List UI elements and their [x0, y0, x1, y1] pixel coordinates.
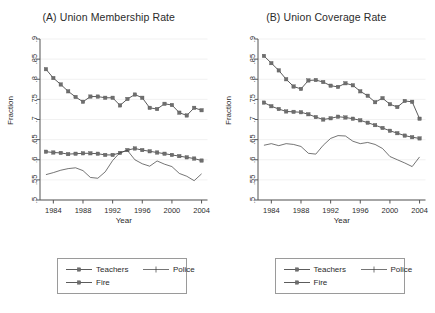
y-tick-label-a: .6: [30, 157, 39, 163]
legend-swatch-teachers-icon: [66, 265, 92, 274]
data-point-fire-a: [141, 96, 144, 99]
data-point-fire-b: [380, 96, 383, 99]
data-point-teachers-a: [170, 153, 173, 156]
data-point-teachers-a: [81, 152, 84, 155]
data-point-fire-a: [118, 104, 121, 107]
data-point-teachers-b: [306, 113, 309, 116]
data-point-fire-a: [96, 95, 99, 98]
data-point-fire-b: [358, 90, 361, 93]
y-tick-label-a: .9: [30, 36, 39, 42]
data-point-teachers-a: [59, 151, 62, 154]
data-point-teachers-a: [148, 150, 151, 153]
data-point-teachers-b: [358, 119, 361, 122]
legend-item-police-a: Police: [143, 265, 195, 274]
x-tick-label-b: 2000: [381, 206, 398, 215]
panel-b: (B) Union Coverage Rate Fraction .5.55.6…: [218, 0, 435, 313]
x-tick-label-a: 2000: [164, 206, 181, 215]
data-point-fire-a: [170, 103, 173, 106]
x-tick-label-b: 1988: [292, 206, 309, 215]
panel-b-svg: .5.55.6.65.7.75.8.85.9198419881992199620…: [218, 33, 435, 236]
data-point-teachers-b: [269, 105, 272, 108]
panel-a-title: (A) Union Membership Rate: [0, 11, 218, 23]
legend-swatch-fire-icon: [284, 278, 310, 287]
data-point-fire-b: [262, 54, 265, 57]
data-point-teachers-b: [365, 121, 368, 124]
data-point-teachers-a: [74, 152, 77, 155]
data-point-teachers-b: [373, 123, 376, 126]
legend-label-fire: Fire: [314, 278, 328, 287]
x-tick-label-a: 1992: [104, 206, 121, 215]
data-point-fire-a: [192, 106, 195, 109]
data-point-fire-b: [291, 85, 294, 88]
data-point-teachers-b: [262, 101, 265, 104]
data-point-fire-b: [343, 82, 346, 85]
data-point-fire-b: [328, 84, 331, 87]
data-point-teachers-b: [343, 116, 346, 119]
x-tick-label-a: 1984: [45, 206, 62, 215]
data-point-fire-a: [59, 83, 62, 86]
legend-swatch-police-icon: [361, 265, 387, 274]
data-point-teachers-a: [96, 152, 99, 155]
x-tick-label-b: 1996: [351, 206, 368, 215]
data-point-fire-b: [314, 78, 317, 81]
data-point-fire-a: [81, 100, 84, 103]
data-point-fire-a: [163, 102, 166, 105]
y-tick-label-b: .75: [247, 94, 256, 104]
data-point-teachers-b: [314, 115, 317, 118]
panel-b-plot: Fraction .5.55.6.65.7.75.8.85.9198419881…: [218, 33, 435, 236]
data-point-teachers-a: [178, 154, 181, 157]
x-tick-label-a: 1996: [134, 206, 151, 215]
panel-b-ylabel: Fraction: [224, 96, 233, 125]
legend-item-fire-a: Fire: [66, 278, 110, 287]
y-tick-label-a: .55: [30, 175, 39, 185]
legend-label-police: Police: [173, 265, 195, 274]
legend-label-teachers: Teachers: [314, 265, 346, 274]
figure-union-rates: (A) Union Membership Rate Fraction .5.55…: [0, 0, 435, 313]
data-point-teachers-a: [185, 156, 188, 159]
data-point-fire-b: [388, 103, 391, 106]
y-tick-label-a: .7: [30, 116, 39, 122]
data-point-fire-a: [74, 95, 77, 98]
data-point-fire-a: [111, 96, 114, 99]
legend-label-police: Police: [391, 265, 413, 274]
panel-a-legend: TeachersPoliceFire: [57, 258, 187, 294]
y-tick-label-b: .65: [247, 134, 256, 144]
data-point-teachers-b: [417, 137, 420, 140]
data-point-teachers-a: [126, 148, 129, 151]
data-point-fire-b: [321, 80, 324, 83]
data-point-teachers-b: [291, 110, 294, 113]
data-point-fire-a: [89, 95, 92, 98]
data-point-fire-a: [155, 107, 158, 110]
series-line-police-b: [263, 136, 419, 167]
data-point-fire-a: [178, 111, 181, 114]
data-point-fire-a: [104, 96, 107, 99]
y-tick-label-a: .85: [30, 54, 39, 64]
data-point-teachers-b: [395, 131, 398, 134]
data-point-fire-a: [126, 97, 129, 100]
data-point-teachers-a: [155, 151, 158, 154]
data-point-teachers-a: [133, 147, 136, 150]
data-point-teachers-b: [410, 136, 413, 139]
y-tick-label-b: .6: [247, 157, 256, 163]
data-point-teachers-a: [66, 152, 69, 155]
data-point-fire-a: [200, 109, 203, 112]
panel-a-ylabel: Fraction: [6, 96, 15, 125]
data-point-fire-a: [44, 67, 47, 70]
y-tick-label-b: .7: [247, 116, 256, 122]
panel-a-svg: .5.55.6.65.7.75.8.85.9198419881992199620…: [0, 33, 218, 236]
panel-a-plot: Fraction .5.55.6.65.7.75.8.85.9198419881…: [0, 33, 218, 236]
data-point-teachers-b: [321, 118, 324, 121]
data-point-fire-a: [185, 114, 188, 117]
data-point-fire-b: [277, 69, 280, 72]
x-tick-label-a: 1988: [75, 206, 92, 215]
legend-label-fire: Fire: [96, 278, 110, 287]
x-tick-label-a: 2004: [193, 206, 210, 215]
x-axis-label-a: Year: [116, 216, 133, 225]
legend-item-fire-b: Fire: [284, 278, 328, 287]
x-axis-label-b: Year: [333, 216, 350, 225]
legend-swatch-teachers-icon: [284, 265, 310, 274]
y-tick-label-b: .85: [247, 54, 256, 64]
data-point-fire-b: [306, 79, 309, 82]
data-point-fire-a: [148, 106, 151, 109]
series-line-fire-b: [263, 56, 419, 119]
